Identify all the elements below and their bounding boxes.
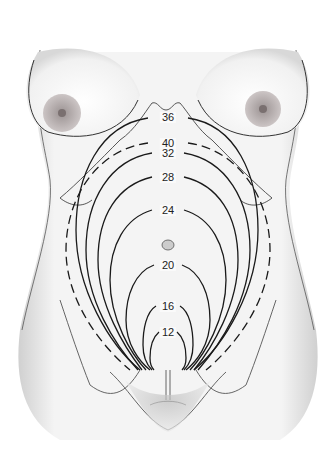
umbilicus <box>162 240 174 250</box>
week-label-20: 20 <box>160 260 176 271</box>
week-label-28: 28 <box>160 172 176 183</box>
week-label-16: 16 <box>160 301 176 312</box>
fundal-height-diagram: 36 40 32 28 24 20 16 12 <box>0 0 336 457</box>
torso-illustration <box>0 0 336 457</box>
week-label-32: 32 <box>160 148 176 159</box>
week-label-12: 12 <box>160 327 176 338</box>
week-label-36: 36 <box>160 112 176 123</box>
week-label-24: 24 <box>160 205 176 216</box>
